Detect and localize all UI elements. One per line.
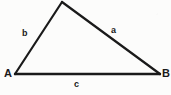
vertex-label-A: A (4, 68, 12, 79)
triangle-side-b (15, 2, 62, 74)
side-label-b: b (22, 29, 28, 38)
triangle-side-a (62, 2, 160, 74)
vertex-label-B: B (162, 68, 170, 79)
triangle-shape (0, 0, 171, 95)
triangle-diagram: A B a b c (0, 0, 171, 95)
side-label-a: a (111, 26, 116, 35)
side-label-c: c (74, 80, 79, 89)
